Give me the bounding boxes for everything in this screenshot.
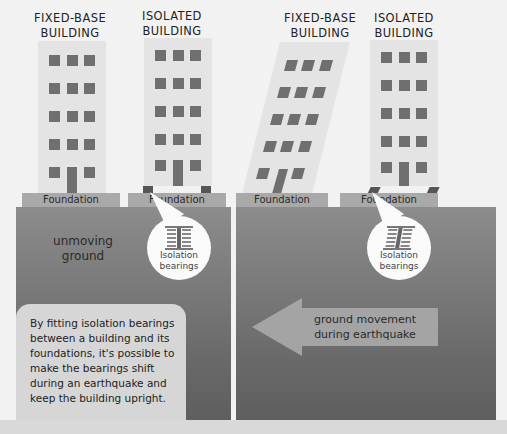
door — [173, 160, 183, 186]
window — [190, 78, 201, 89]
fixed-base-building — [38, 41, 106, 193]
window — [416, 52, 427, 63]
label-line: Isolation — [147, 250, 211, 261]
window — [49, 111, 60, 122]
window — [67, 111, 78, 122]
unmoving-ground-label: unmoving ground — [48, 234, 118, 264]
shifted-isolation-bearing-icon — [383, 226, 415, 250]
label-line: ground — [48, 249, 118, 264]
window — [190, 106, 201, 117]
title-line: BUILDING — [278, 25, 362, 40]
window — [190, 160, 201, 171]
isolation-bearing-callout-right: Isolation bearings — [367, 216, 431, 280]
bearing-pad — [201, 186, 211, 193]
window — [416, 80, 427, 91]
window — [155, 50, 166, 61]
window — [190, 50, 201, 61]
window — [173, 106, 184, 117]
isolation-bearing-icon — [165, 226, 193, 250]
label-line: bearings — [147, 261, 211, 272]
window — [67, 83, 78, 94]
window — [416, 162, 427, 173]
isolation-bearing-callout-left: Isolation bearings — [147, 216, 211, 280]
title-line: ISOLATED — [137, 8, 207, 23]
isolation-bearings-label: Isolation bearings — [147, 250, 211, 272]
window — [399, 52, 410, 63]
window — [155, 160, 166, 171]
window — [416, 136, 427, 147]
window — [49, 83, 60, 94]
title-line: BUILDING — [371, 25, 438, 40]
label-line: bearings — [367, 261, 431, 272]
window — [399, 108, 410, 119]
door — [67, 167, 77, 193]
label-line: Isolation — [367, 250, 431, 261]
window — [416, 108, 427, 119]
label-line: ground movement — [300, 312, 430, 327]
title-line: BUILDING — [137, 23, 207, 38]
window — [49, 55, 60, 66]
window — [155, 106, 166, 117]
tilted-fixed-base-building — [236, 40, 356, 200]
title-line: FIXED-BASE — [28, 10, 112, 25]
window — [190, 134, 201, 145]
window — [173, 50, 184, 61]
fixed-base-title-left: FIXED-BASE BUILDING — [28, 10, 112, 40]
window — [155, 134, 166, 145]
isolated-title-left: ISOLATED BUILDING — [137, 8, 207, 38]
fixed-base-title-right: FIXED-BASE BUILDING — [278, 10, 362, 40]
window — [84, 167, 95, 178]
foundation-label: Foundation — [254, 194, 310, 205]
window — [381, 52, 392, 63]
window — [173, 134, 184, 145]
window — [381, 108, 392, 119]
window — [399, 136, 410, 147]
info-box: By fitting isolation bearings between a … — [16, 304, 186, 420]
title-line: FIXED-BASE — [278, 10, 362, 25]
window — [84, 139, 95, 150]
isolated-title-right: ISOLATED BUILDING — [371, 10, 438, 40]
window — [84, 55, 95, 66]
window — [173, 78, 184, 89]
door — [399, 162, 409, 186]
window — [67, 139, 78, 150]
right-panel: FIXED-BASE BUILDING ISOLATED BUILDING — [236, 0, 507, 434]
label-line: during earthquake — [300, 327, 430, 342]
ground-movement-label: ground movement during earthquake — [300, 312, 430, 342]
bottom-band — [0, 420, 507, 434]
window — [49, 139, 60, 150]
window — [84, 111, 95, 122]
window — [399, 80, 410, 91]
info-text: By fitting isolation bearings between a … — [30, 317, 174, 404]
foundation-fixed-left: Foundation — [22, 193, 120, 207]
window — [155, 78, 166, 89]
window — [381, 162, 392, 173]
title-line: BUILDING — [28, 25, 112, 40]
window — [67, 55, 78, 66]
label-line: unmoving — [48, 234, 118, 249]
window — [381, 80, 392, 91]
window — [49, 167, 60, 178]
isolated-building-right — [370, 40, 438, 186]
foundation-fixed-right: Foundation — [236, 193, 328, 207]
isolation-bearings-label: Isolation bearings — [367, 250, 431, 272]
isolated-building-left — [144, 38, 212, 186]
window — [84, 83, 95, 94]
window — [381, 136, 392, 147]
title-line: ISOLATED — [371, 10, 438, 25]
foundation-label: Foundation — [43, 194, 99, 205]
